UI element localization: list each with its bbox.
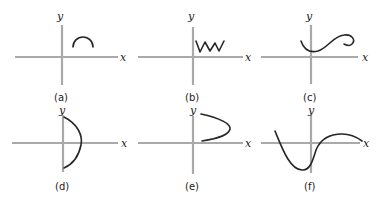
panel-d: y x (d) <box>12 104 128 192</box>
panel-caption: (e) <box>185 181 199 192</box>
panel-caption: (c) <box>303 92 316 103</box>
y-axis-label: y <box>305 10 313 23</box>
panel-f: y x (f) <box>261 104 370 192</box>
y-axis-label: y <box>187 10 195 23</box>
parabola-curve <box>201 114 230 141</box>
arch-curve <box>73 37 93 47</box>
zigzag-curve <box>196 41 224 52</box>
x-axis-label: x <box>245 137 252 150</box>
panel-caption: (a) <box>54 92 68 103</box>
panel-caption: (b) <box>185 92 199 103</box>
panel-caption: (d) <box>55 181 69 192</box>
function-graphs-figure: y x (a) y x (b) y x (c) y x (d) y x (e) <box>0 0 381 204</box>
panel-a: y x (a) <box>15 10 127 103</box>
s-curve-with-loop <box>301 35 354 52</box>
x-axis-label: x <box>362 51 369 64</box>
x-axis-label: x <box>121 137 128 150</box>
y-axis-label: y <box>189 104 197 117</box>
x-axis-label: x <box>245 51 252 64</box>
y-axis-label: y <box>58 104 66 117</box>
panel-e: y x (e) <box>138 104 252 192</box>
x-axis-label: x <box>363 137 370 150</box>
x-axis-label: x <box>120 51 127 64</box>
panel-c: y x (c) <box>261 10 369 103</box>
y-axis-label: y <box>56 10 64 23</box>
panel-caption: (f) <box>304 181 315 192</box>
y-axis-label: y <box>307 104 315 117</box>
wave-curve <box>275 131 362 170</box>
panel-b: y x (b) <box>138 10 252 103</box>
